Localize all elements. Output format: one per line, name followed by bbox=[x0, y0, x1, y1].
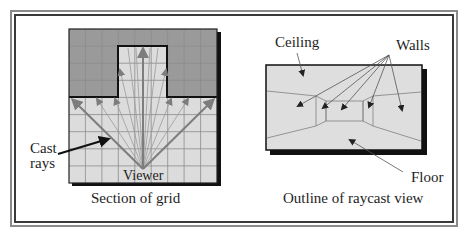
walls-label: Walls bbox=[396, 38, 430, 53]
section-of-grid-caption: Section of grid bbox=[91, 191, 180, 206]
cast-rays-label-line2: rays bbox=[30, 156, 55, 171]
cast-rays-label-line1: Cast bbox=[30, 141, 57, 156]
floor-label: Floor bbox=[411, 170, 444, 185]
viewer-label: Viewer bbox=[123, 168, 163, 183]
raycast-view-caption: Outline of raycast view bbox=[283, 191, 423, 206]
ceiling-label: Ceiling bbox=[275, 35, 319, 50]
grid-section bbox=[58, 29, 221, 186]
raycast-view bbox=[266, 53, 427, 172]
